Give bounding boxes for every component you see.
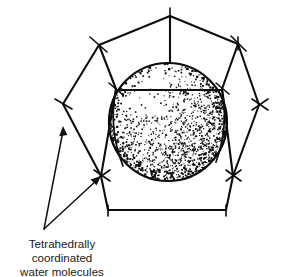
clathrate-cage-diagram: Tetrahedrally coordinated water molecule…	[0, 0, 291, 277]
caption-line-2: coordinated	[32, 251, 93, 264]
caption-line-3: water molecules	[19, 265, 104, 277]
leader-arrowhead-upper	[59, 126, 67, 136]
figure-root: Tetrahedrally coordinated water molecule…	[0, 0, 291, 277]
edge-upper-left-to-mid-left	[63, 45, 99, 104]
edge-mid-right-to-lower-right	[233, 105, 259, 176]
edge-upper-right-to-mid-right	[238, 44, 259, 105]
edge-top-to-upper-right	[170, 16, 238, 44]
caption-block: Tetrahedrally coordinated water molecule…	[19, 237, 104, 277]
guest-sphere-group	[109, 63, 246, 216]
edge-top-to-upper-left	[99, 16, 170, 45]
leader-annotations	[44, 126, 101, 229]
caption-line-1: Tetrahedrally	[29, 237, 96, 250]
edge-upper-right-to-sphere-right	[222, 44, 238, 89]
